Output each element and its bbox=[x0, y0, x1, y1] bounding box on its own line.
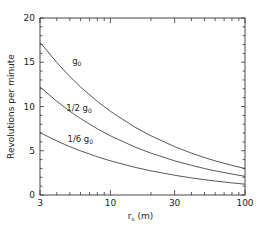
y-tick-label: 10 bbox=[24, 102, 36, 112]
x-tick-label: 3 bbox=[37, 198, 43, 208]
y-tick-label: 20 bbox=[24, 13, 36, 23]
curve-label: g0 bbox=[72, 56, 81, 67]
y-tick-label: 5 bbox=[29, 146, 35, 156]
y-tick-label: 15 bbox=[24, 57, 35, 67]
x-axis-label: rs (m) bbox=[128, 211, 154, 222]
x-axis-label-unit: (m) bbox=[135, 211, 154, 221]
curve-label: 1/2 g0 bbox=[66, 103, 92, 114]
data-curves bbox=[40, 42, 245, 184]
x-tick-label: 30 bbox=[169, 198, 181, 208]
curve-labels: g01/2 g01/6 g0 bbox=[66, 56, 93, 145]
curve-label: 1/6 g0 bbox=[67, 134, 93, 145]
x-tick-label: 10 bbox=[105, 198, 117, 208]
axis-tick-labels: 0510152031030100 bbox=[24, 13, 254, 208]
chart: 0510152031030100 g01/2 g01/6 g0 Revoluti… bbox=[0, 0, 265, 229]
y-axis-label: Revolutions per minute bbox=[6, 54, 16, 159]
y-tick-label: 0 bbox=[29, 190, 35, 200]
x-tick-label: 100 bbox=[236, 198, 253, 208]
